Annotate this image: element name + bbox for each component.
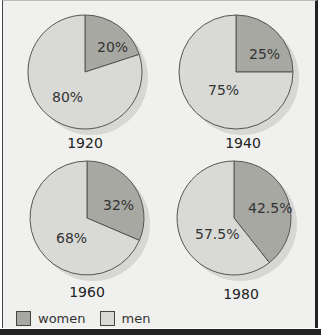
legend: women men <box>16 309 164 327</box>
label-1980-women: 42.5% <box>248 200 292 216</box>
pie-1920 <box>25 12 150 137</box>
label-1940-men: 75% <box>208 82 239 98</box>
bottom-border <box>0 329 321 335</box>
swatch-women-icon <box>16 311 31 326</box>
label-1920-women: 20% <box>97 39 128 55</box>
label-1980-men: 57.5% <box>195 226 239 242</box>
pie-1960 <box>27 158 152 283</box>
legend-item-women: women <box>16 311 86 326</box>
pie-1980 <box>174 158 299 283</box>
pie-1940 <box>176 12 301 137</box>
legend-label-men: men <box>122 311 151 326</box>
label-1920-men: 80% <box>52 89 83 105</box>
label-1940-women: 25% <box>249 46 280 62</box>
year-1960: 1960 <box>47 284 127 300</box>
label-1960-men: 68% <box>56 230 87 246</box>
label-1960-women: 32% <box>103 197 134 213</box>
legend-item-men: men <box>100 311 151 326</box>
year-1920: 1920 <box>45 135 125 151</box>
year-1940: 1940 <box>203 135 283 151</box>
legend-label-women: women <box>38 311 86 326</box>
year-1980: 1980 <box>201 286 281 302</box>
swatch-men-icon <box>100 311 115 326</box>
